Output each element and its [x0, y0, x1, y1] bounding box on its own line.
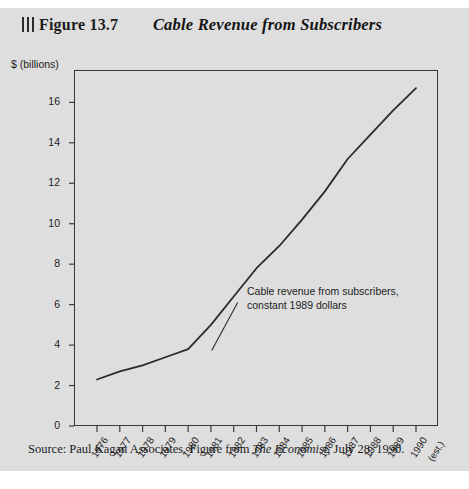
y-axis-tick-label: 4 — [34, 338, 60, 350]
figure-page: Figure 13.7 Cable Revenue from Subscribe… — [0, 8, 469, 471]
y-axis-tick-label: 14 — [34, 136, 60, 148]
y-axis-unit-label: $ (billions) — [11, 58, 59, 70]
annotation-line-1: Cable revenue from subscribers, — [247, 284, 399, 298]
y-axis-tick-label: 12 — [34, 176, 60, 188]
figure-title: Cable Revenue from Subscribers — [0, 15, 469, 35]
annotation-line-2: constant 1989 dollars — [247, 298, 399, 312]
plot-frame — [74, 70, 438, 426]
source-suffix: , July 28, 1990. — [327, 442, 404, 456]
series-annotation: Cable revenue from subscribers, constant… — [247, 284, 399, 312]
y-axis-tick-label: 10 — [34, 217, 60, 229]
y-axis-tick-label: 8 — [34, 257, 60, 269]
source-prefix: Source: Paul Kagan Associates. Figure fr… — [28, 442, 253, 456]
y-axis-tick-label: 2 — [34, 379, 60, 391]
source-publication: The Economist — [253, 442, 328, 456]
y-axis-tick-label: 6 — [34, 298, 60, 310]
chart-region: $ (billions) 0246810121416 1976197719781… — [0, 46, 469, 440]
y-axis-tick-label: 0 — [34, 419, 60, 431]
y-axis-tick-label: 16 — [34, 95, 60, 107]
figure-header: Figure 13.7 Cable Revenue from Subscribe… — [0, 8, 469, 46]
source-note: Source: Paul Kagan Associates. Figure fr… — [0, 442, 469, 457]
